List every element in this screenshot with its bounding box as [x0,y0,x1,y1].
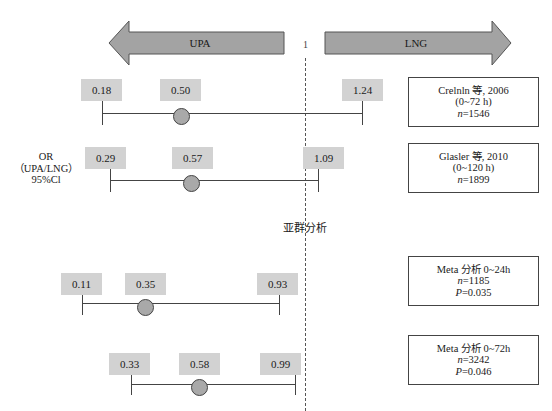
ci-line [110,180,319,181]
study-n: n=1899 [409,174,538,186]
study-name: Meta 分析 0~72h [409,343,538,355]
estimate-box: 0.35 [125,273,166,295]
reference-value-label: 1 [303,39,308,50]
ci-lower-box: 0.33 [109,353,150,375]
lng-arrow-label: LNG [386,37,446,49]
direction-arrows [0,0,552,80]
study-p: P=0.046 [409,366,538,378]
or-axis-label: OR （UPA/LNG） 95%Cl [10,151,82,186]
ci-upper-box: 1.09 [303,147,344,169]
study-label-box: Meta 分析 0~24h n=1185 P=0.035 [408,256,539,306]
subgroup-analysis-label: 亚群分析 [283,219,327,235]
ci-line [82,303,280,304]
study-name: Glasler 等, 2010 [409,151,538,163]
study-name: Meta 分析 0~24h [409,264,538,276]
study-window: (0~72 h) [409,96,538,108]
study-n: n=1546 [409,108,538,120]
or-label-line2: （UPA/LNG） [10,163,82,175]
study-p: P=0.035 [409,287,538,299]
ci-lower-box: 0.18 [81,79,122,101]
ci-lower-tick [82,295,83,315]
study-name: Crelnln 等, 2006 [409,85,538,97]
ci-upper-box: 0.93 [257,273,298,295]
point-estimate-marker [183,175,200,192]
estimate-box: 0.50 [160,79,201,101]
ci-lower-box: 0.11 [61,273,102,295]
ci-upper-box: 0.99 [260,353,301,375]
ci-upper-box: 1.24 [342,79,383,101]
or-label-line3: 95%Cl [10,174,82,186]
point-estimate-marker [137,299,154,316]
or-label-line1: OR [10,151,82,163]
study-label-box: Crelnln 等, 2006 (0~72 h) n=1546 [408,77,539,127]
point-estimate-marker [173,108,190,125]
point-estimate-marker [191,379,208,396]
ci-lower-box: 0.29 [85,147,126,169]
upa-arrow-label: UPA [170,37,230,49]
study-label-box: Meta 分析 0~72h n=3242 P=0.046 [408,335,539,385]
ci-line [102,113,363,114]
study-window: (0~120 h) [409,162,538,174]
study-n: n=3242 [409,354,538,366]
ci-line [131,384,296,385]
estimate-box: 0.57 [172,147,213,169]
estimate-box: 0.58 [179,353,220,375]
study-label-box: Glasler 等, 2010 (0~120 h) n=1899 [408,143,539,193]
ci-lower-tick [131,375,132,395]
study-n: n=1185 [409,275,538,287]
ci-upper-tick [279,295,280,315]
ci-upper-tick [295,375,296,395]
